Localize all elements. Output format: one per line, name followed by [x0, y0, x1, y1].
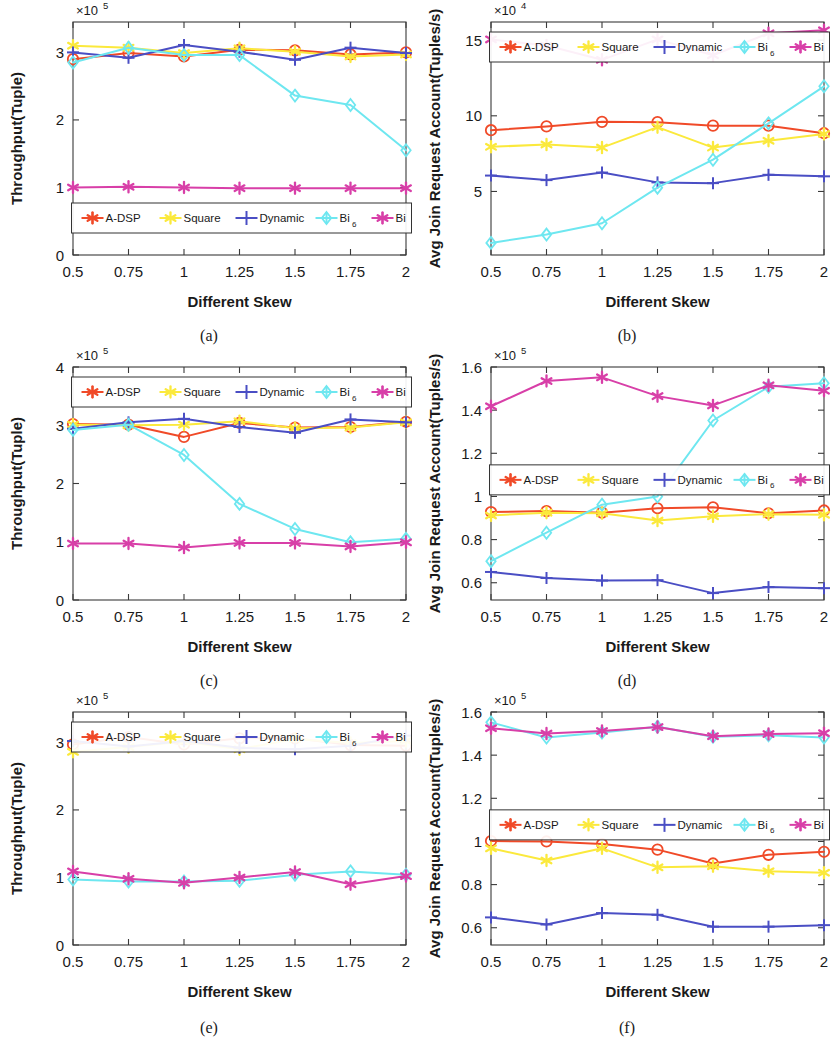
y-tick-label: 3	[56, 734, 64, 751]
x-tick-label: 1.75	[336, 608, 365, 625]
legend-label-bi: Bi	[814, 41, 824, 53]
y-tick-label: 1	[56, 869, 64, 886]
legend-label-bi: Bi	[814, 474, 824, 486]
y-exponent-label: ×10	[76, 348, 98, 363]
x-axis-label: Different Skew	[187, 293, 292, 310]
x-tick-label: 0.5	[63, 608, 84, 625]
legend-label-a-dsp: A-DSP	[524, 41, 559, 53]
y-tick-label: 1.4	[461, 402, 482, 419]
y-tick-label: 0.6	[461, 919, 482, 936]
legend-label-bi: Bi	[396, 731, 406, 743]
y-axis-exponent: ×105	[494, 345, 526, 363]
x-tick-label: 1	[180, 608, 188, 625]
y-tick-label: 1.2	[461, 445, 482, 462]
legend-label-square: Square	[602, 819, 639, 831]
y-tick-label: 1	[56, 533, 64, 550]
y-tick-label: 0.8	[461, 531, 482, 548]
y-exponent-label: ×10	[494, 693, 516, 708]
x-axis-label: Different Skew	[605, 638, 710, 655]
y-tick-label: 0	[56, 592, 64, 609]
x-tick-label: 0.75	[114, 263, 143, 280]
x-axis-label: Different Skew	[187, 983, 292, 1000]
legend-label-square: Square	[184, 731, 221, 743]
x-tick-label: 0.75	[114, 608, 143, 625]
legend-label-dynamic: Dynamic	[678, 41, 723, 53]
x-tick-label: 1.25	[225, 953, 254, 970]
x-tick-label: 0.75	[532, 953, 561, 970]
legend-label-bi6: Bi	[758, 41, 768, 53]
legend-label-a-dsp: A-DSP	[524, 819, 559, 831]
series-bi	[486, 722, 829, 742]
y-tick-label: 0	[56, 937, 64, 954]
y-tick-label: 2	[56, 475, 64, 492]
y-axis-label: Avg Join Request Account(Tuples/s)	[426, 354, 443, 613]
chart-panel-e: 0.50.7511.251.51.7520123×105Throughput(T…	[0, 690, 418, 1038]
plot-svg: 0.50.7511.251.51.7520.60.811.21.41.6×105…	[418, 345, 836, 690]
y-exponent-superscript: 5	[103, 345, 108, 356]
x-tick-label: 0.5	[481, 263, 502, 280]
legend-label-square: Square	[602, 474, 639, 486]
y-tick-label: 3	[56, 417, 64, 434]
legend-label-bi6: Bi	[340, 212, 350, 224]
y-axis-ticks: 0123	[56, 734, 406, 954]
y-tick-label: 1.2	[461, 790, 482, 807]
x-tick-label: 1.5	[703, 953, 724, 970]
series-bi6	[486, 80, 828, 249]
y-axis-label: Avg Join Request Account(Tuples/s)	[426, 699, 443, 958]
y-tick-label: 0	[56, 247, 64, 264]
series-bi6	[68, 419, 410, 549]
x-tick-label: 0.75	[114, 953, 143, 970]
y-axis-label: Avg Join Request Account(Tuples/s)	[426, 9, 443, 268]
legend-label-square: Square	[184, 386, 221, 398]
x-tick-label: 2	[402, 608, 410, 625]
y-tick-label: 5	[474, 183, 482, 200]
y-tick-label: 1	[474, 833, 482, 850]
legend-label-subscript: 6	[352, 739, 357, 748]
series-bi	[68, 537, 411, 553]
x-tick-label: 0.5	[481, 953, 502, 970]
x-tick-label: 1.25	[643, 608, 672, 625]
x-tick-label: 1.75	[336, 263, 365, 280]
x-tick-label: 1.75	[336, 953, 365, 970]
legend: A-DSPSquareDynamicBi6Bi	[490, 810, 830, 840]
x-tick-label: 1.75	[754, 608, 783, 625]
legend-label-a-dsp: A-DSP	[106, 212, 141, 224]
series-square	[486, 843, 829, 879]
panel-caption: (a)	[200, 327, 218, 345]
y-exponent-label: ×10	[76, 693, 98, 708]
series-bi	[486, 372, 829, 412]
y-tick-label: 2	[56, 801, 64, 818]
y-tick-label: 2	[56, 111, 64, 128]
x-axis-label: Different Skew	[605, 293, 710, 310]
legend-label-bi6: Bi	[340, 731, 350, 743]
y-exponent-superscript: 5	[103, 690, 108, 701]
legend-label-subscript: 6	[770, 481, 775, 490]
legend-label-dynamic: Dynamic	[260, 212, 305, 224]
plot-svg: 0.50.7511.251.51.7520123×105Throughput(T…	[0, 0, 418, 345]
chart-panel-f: 0.50.7511.251.51.7520.60.811.21.41.6×105…	[418, 690, 836, 1038]
x-tick-label: 1.25	[643, 953, 672, 970]
x-tick-label: 2	[402, 953, 410, 970]
x-tick-label: 1	[180, 263, 188, 280]
x-tick-label: 1.25	[225, 263, 254, 280]
legend: A-DSPSquareDynamicBi6Bi	[72, 377, 412, 407]
y-tick-label: 1.6	[461, 704, 482, 721]
legend-label-bi6: Bi	[340, 386, 350, 398]
series-group	[67, 413, 412, 553]
x-tick-label: 2	[820, 953, 828, 970]
y-tick-label: 1	[56, 179, 64, 196]
legend-label-dynamic: Dynamic	[260, 386, 305, 398]
legend-label-square: Square	[602, 41, 639, 53]
legend-label-dynamic: Dynamic	[678, 819, 723, 831]
legend-label-a-dsp: A-DSP	[106, 731, 141, 743]
x-tick-label: 1.25	[225, 608, 254, 625]
y-tick-label: 1	[474, 488, 482, 505]
panel-caption: (c)	[200, 672, 218, 690]
x-tick-label: 2	[820, 263, 828, 280]
y-axis-label: Throughput(Tuple)	[8, 72, 25, 205]
legend-label-subscript: 6	[352, 220, 357, 229]
y-axis-label: Throughput(Tuple)	[8, 762, 25, 895]
legend-label-a-dsp: A-DSP	[106, 386, 141, 398]
legend-label-bi6: Bi	[758, 819, 768, 831]
y-tick-label: 15	[465, 32, 482, 49]
